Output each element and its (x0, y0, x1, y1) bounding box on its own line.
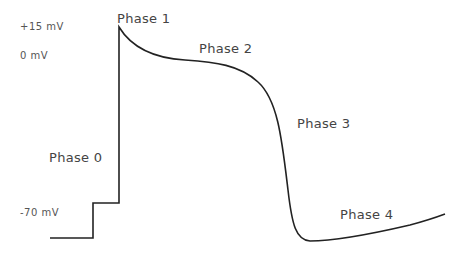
phase-4-label: Phase 4 (340, 208, 393, 221)
phase-0-label: Phase 0 (49, 151, 102, 164)
action-potential-diagram (0, 0, 468, 253)
phase-1-label: Phase 1 (117, 12, 170, 25)
axis-label-minus70: -70 mV (20, 208, 59, 218)
axis-label-plus15: +15 mV (20, 22, 64, 32)
phase-2-label: Phase 2 (199, 42, 252, 55)
phase-3-label: Phase 3 (297, 117, 350, 130)
axis-label-zero: 0 mV (20, 51, 48, 61)
